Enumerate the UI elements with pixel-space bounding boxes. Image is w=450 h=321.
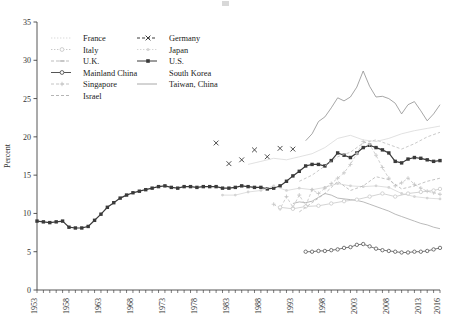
data-point bbox=[349, 184, 352, 187]
data-point bbox=[310, 250, 313, 253]
legend-entry-u-s-[interactable]: U.S. bbox=[137, 57, 184, 66]
data-point bbox=[214, 141, 219, 146]
faint-top-mark bbox=[222, 1, 229, 6]
data-point bbox=[342, 199, 345, 202]
legend-label: Israel bbox=[83, 92, 102, 101]
y-tick-label: 5 bbox=[27, 248, 31, 257]
data-point bbox=[355, 243, 358, 246]
data-point bbox=[86, 225, 89, 228]
data-point bbox=[182, 185, 185, 188]
x-tick-label: 2003 bbox=[350, 298, 359, 314]
data-point bbox=[42, 220, 45, 223]
data-point bbox=[426, 249, 429, 252]
data-point bbox=[381, 148, 384, 151]
data-point bbox=[304, 164, 307, 167]
y-tick-label: 20 bbox=[23, 133, 31, 142]
series-mainland-china bbox=[304, 242, 442, 254]
data-point bbox=[61, 219, 64, 222]
data-point bbox=[374, 247, 377, 250]
x-tick-label: 1993 bbox=[286, 298, 295, 314]
data-point bbox=[317, 163, 320, 166]
data-point bbox=[438, 159, 441, 162]
data-point bbox=[214, 185, 217, 188]
data-point bbox=[394, 195, 397, 198]
data-point bbox=[413, 195, 416, 198]
legend-label: South Korea bbox=[169, 69, 211, 78]
legend-entry-south-korea[interactable]: South Korea bbox=[169, 69, 211, 78]
data-point bbox=[138, 190, 141, 193]
data-point bbox=[112, 201, 115, 204]
data-point bbox=[240, 184, 243, 187]
data-point bbox=[336, 248, 339, 251]
x-tick-label: 1973 bbox=[158, 298, 167, 314]
data-point bbox=[375, 184, 378, 187]
legend-label: Italy bbox=[83, 46, 99, 55]
legend-entry-japan[interactable]: Japan bbox=[137, 46, 189, 55]
data-point bbox=[80, 226, 83, 229]
data-point bbox=[426, 158, 429, 161]
legend-entry-taiwan-china[interactable]: Taiwan, China bbox=[137, 80, 218, 89]
y-tick-label: 25 bbox=[23, 95, 31, 104]
data-point bbox=[323, 249, 326, 252]
data-point bbox=[253, 186, 256, 189]
y-tick-label: 15 bbox=[23, 171, 31, 180]
legend-marker-dot bbox=[147, 48, 150, 51]
x-tick-label: 1968 bbox=[126, 298, 135, 314]
data-point bbox=[438, 192, 442, 196]
series-germany bbox=[214, 141, 296, 166]
y-axis-title: Percent bbox=[3, 143, 12, 168]
legend-entry-israel[interactable]: Israel bbox=[51, 92, 102, 101]
legend-entry-u-k-[interactable]: U.K. bbox=[51, 57, 99, 66]
series-line bbox=[299, 132, 440, 181]
data-point bbox=[247, 191, 250, 194]
data-point bbox=[349, 156, 352, 159]
data-point bbox=[380, 165, 384, 169]
y-tick-label: 30 bbox=[23, 56, 31, 65]
data-point bbox=[374, 153, 378, 157]
data-point bbox=[419, 250, 422, 253]
data-point bbox=[406, 251, 409, 254]
series-u-k- bbox=[299, 132, 440, 181]
legend-label: Japan bbox=[169, 46, 189, 55]
x-tick-label: 1953 bbox=[30, 298, 39, 314]
data-point bbox=[67, 226, 70, 229]
x-tick-label: 2013 bbox=[414, 298, 423, 314]
data-point bbox=[35, 219, 38, 222]
y-tick-label: 35 bbox=[23, 18, 31, 27]
data-point bbox=[265, 154, 270, 159]
data-point bbox=[99, 212, 102, 215]
data-point bbox=[368, 245, 371, 248]
data-point bbox=[419, 190, 422, 193]
legend-label: Singapore bbox=[83, 80, 117, 89]
legend-entry-mainland-china[interactable]: Mainland China bbox=[51, 69, 137, 78]
data-point bbox=[278, 146, 283, 151]
legend-label: Taiwan, China bbox=[169, 80, 218, 89]
data-point bbox=[125, 193, 128, 196]
data-point bbox=[406, 192, 409, 195]
data-point bbox=[330, 248, 333, 251]
data-point bbox=[170, 186, 173, 189]
data-point bbox=[189, 185, 192, 188]
data-point bbox=[195, 186, 198, 189]
data-point bbox=[362, 146, 365, 149]
x-tick-label: 1963 bbox=[94, 298, 103, 314]
chart-container: 05101520253035Percent1953195819631968197… bbox=[0, 0, 450, 321]
data-point bbox=[234, 186, 237, 189]
line-chart: 05101520253035Percent1953195819631968197… bbox=[0, 0, 450, 321]
data-point bbox=[310, 188, 314, 192]
legend-entry-italy[interactable]: Italy bbox=[51, 46, 99, 55]
data-point bbox=[413, 250, 416, 253]
legend-entry-germany[interactable]: Germany bbox=[137, 34, 201, 43]
legend-entry-france[interactable]: France bbox=[51, 34, 106, 43]
data-point bbox=[317, 204, 320, 207]
data-point bbox=[432, 248, 435, 251]
data-point bbox=[290, 147, 295, 152]
legend-label: Mainland China bbox=[83, 69, 137, 78]
data-point bbox=[362, 242, 365, 245]
data-point bbox=[278, 206, 281, 209]
data-point bbox=[419, 186, 423, 190]
legend-entry-singapore[interactable]: Singapore bbox=[51, 80, 117, 89]
data-point bbox=[93, 219, 96, 222]
data-point bbox=[355, 198, 358, 201]
legend-marker-circle bbox=[60, 71, 64, 75]
